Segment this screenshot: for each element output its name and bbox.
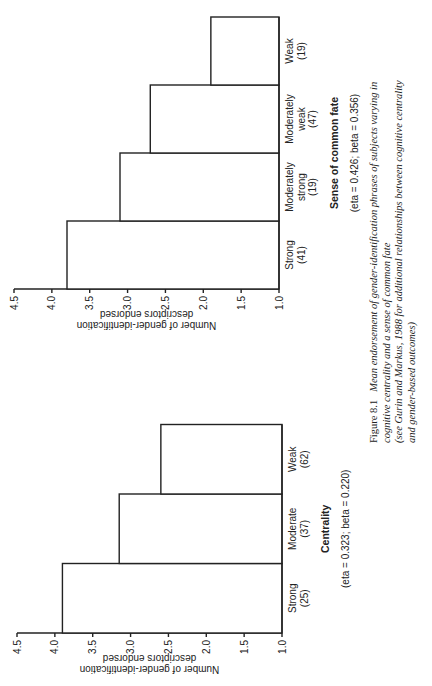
common-fate-bar [120,153,279,221]
centrality-y-tick-label: 2.0 [201,640,212,654]
centrality-y-tick-label: 3.5 [87,640,98,654]
common-fate-y-tick-label: 4.5 [9,296,20,310]
caption-line-1: Figure 8.1Mean endorsement of gender-ide… [368,3,381,443]
centrality-chart-title: Centrality [319,504,331,553]
common-fate-bar [67,221,279,289]
common-fate-category-label: weak [296,106,307,131]
common-fate-category-label: Strong [284,240,295,269]
caption-text-1: Mean endorsement of gender-identificatio… [368,82,379,392]
common-fate-y-tick-label: 4.0 [46,296,57,310]
caption-line-4: and gender-based outcomes) [406,3,419,443]
centrality-category-label: (25) [299,589,310,607]
common-fate-category-label: Weak [284,37,295,63]
centrality-y-tick-label: 1.5 [239,640,250,654]
centrality-category-label: (62) [299,450,310,468]
centrality-y-tick-label: 4.5 [12,640,23,654]
common-fate-y-axis-title-line1: Number of gender-identification [77,320,217,331]
figure-number: Figure 8.1 [368,400,379,443]
centrality-y-tick-label: 1.0 [277,640,288,654]
centrality-y-tick-label: 2.5 [163,640,174,654]
common-fate-bar [211,17,279,85]
common-fate-bar [150,85,279,153]
centrality-y-tick-label: 3.0 [125,640,136,654]
centrality-chart-stats: (eta = 0.323; beta = 0.220) [340,470,351,588]
common-fate-chart-stats: (eta = 0.426; beta = 0.356) [349,94,360,212]
common-fate-y-tick-label: 3.0 [122,296,133,310]
common-fate-category-label: (19) [307,178,318,196]
centrality-category-label: Weak [287,446,298,472]
common-fate-y-tick-label: 2.5 [160,296,171,310]
centrality-category-label: Moderate [287,507,298,550]
common-fate-category-label: (47) [307,110,318,128]
caption-line-3: (see Gurin and Markus, 1988 for addition… [393,3,406,443]
centrality-y-tick-label: 4.0 [49,640,60,654]
common-fate-category-label: Moderately [284,94,295,143]
common-fate-y-axis-title-line2: descriptors endorsed [100,309,193,320]
figure-caption: Figure 8.1Mean endorsement of gender-ide… [368,3,418,443]
common-fate-chart-title: Sense of common fate [328,97,340,209]
common-fate-category-label: strong [296,173,307,201]
figure-page: 1.01.52.02.53.03.54.04.5Number of gender… [0,0,432,686]
centrality-category-label: Strong [287,584,298,613]
common-fate-y-tick-label: 3.5 [84,296,95,310]
centrality-bar [62,564,282,634]
centrality-bar [161,425,282,495]
centrality-category-label: (37) [299,520,310,538]
caption-line-2: cognitive centrality and a sense of comm… [381,3,394,443]
centrality-y-axis-title-line2: descriptors endorsed [103,653,196,664]
common-fate-category-label: Moderately [284,162,295,211]
common-fate-y-tick-label: 1.5 [236,296,247,310]
common-fate-category-label: (41) [296,246,307,264]
common-fate-y-tick-label: 1.0 [274,296,285,310]
common-fate-y-tick-label: 2.0 [198,296,209,310]
centrality-bar [119,494,282,564]
centrality-y-axis-title-line1: Number of gender-identification [80,664,220,675]
common-fate-category-label: (19) [296,42,307,60]
